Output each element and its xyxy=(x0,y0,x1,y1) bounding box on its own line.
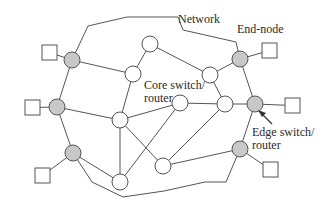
end-node xyxy=(35,168,50,183)
network-label: Network xyxy=(178,13,220,26)
core-switch-node xyxy=(112,174,128,190)
link xyxy=(163,149,240,166)
end-node xyxy=(42,45,57,60)
core-switch-node xyxy=(125,66,141,82)
end-node-label: End-node xyxy=(237,23,284,36)
end-node xyxy=(285,98,300,113)
edge-switch-node xyxy=(65,145,81,161)
link xyxy=(120,103,180,182)
core-switch-node xyxy=(155,158,171,174)
arrowhead-icon xyxy=(258,110,266,117)
end-node xyxy=(25,100,40,115)
core-switch-node xyxy=(142,36,158,52)
core-switch-node xyxy=(217,96,233,112)
link xyxy=(150,44,210,75)
link xyxy=(72,60,133,74)
edge-switch-node xyxy=(232,51,248,67)
edge-switch-node xyxy=(49,99,65,115)
edge-switch-node xyxy=(247,96,263,112)
end-node xyxy=(262,43,277,58)
edge-switch-node xyxy=(64,52,80,68)
arrow xyxy=(258,110,272,124)
core-switch-label-2: router xyxy=(144,92,173,105)
link xyxy=(120,103,180,120)
core-switch-node xyxy=(112,112,128,128)
edge-switch-label-2: router xyxy=(252,139,281,152)
link xyxy=(57,107,120,120)
link xyxy=(120,120,163,166)
core-switch-node xyxy=(172,95,188,111)
edge-switch-node xyxy=(232,141,248,157)
end-node xyxy=(263,162,278,177)
